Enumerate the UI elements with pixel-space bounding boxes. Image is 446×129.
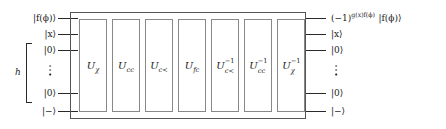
gate-u-c-lt-inverse-label: U−1c< — [216, 61, 233, 71]
output-label-zero-bottom: |0⟩ — [331, 89, 343, 98]
output-label-zero-top: |0⟩ — [331, 46, 343, 55]
gate-u-cc-inverse[interactable]: U−1cc — [244, 19, 272, 112]
gate-u-cc-inverse-label: U−1cc — [249, 61, 266, 71]
register-label-h: h — [15, 67, 21, 77]
input-vertical-ellipsis — [49, 62, 51, 77]
output-wire-3 — [306, 93, 326, 94]
output-label-x: |x⟩ — [331, 30, 343, 39]
gate-u-cc-label: Ucc — [118, 61, 134, 71]
gate-u-c-lt[interactable]: Uc< — [145, 19, 173, 112]
gate-u-fc[interactable]: Ufc — [178, 19, 206, 112]
gate-u-chi-inverse[interactable]: U−1χ — [277, 19, 305, 112]
gate-u-chi[interactable]: Uχ — [79, 19, 107, 112]
input-label-minus: |−⟩ — [42, 107, 56, 116]
quantum-circuit-figure: |f(ϕ)⟩ |x⟩ |0⟩ |0⟩ |−⟩ h Uχ Ucc Uc< Ufc … — [0, 0, 446, 129]
gate-u-c-lt-label: Uc< — [150, 61, 168, 71]
gate-u-cc[interactable]: Ucc — [112, 19, 140, 112]
gate-u-c-lt-inverse[interactable]: U−1c< — [211, 19, 239, 112]
gate-u-chi-label: Uχ — [87, 61, 99, 71]
output-wire-2 — [306, 50, 326, 51]
output-wire-1 — [306, 34, 326, 35]
gate-u-fc-label: Ufc — [185, 61, 200, 71]
output-wire-0 — [306, 18, 326, 19]
register-bracket — [26, 43, 32, 103]
output-vertical-ellipsis — [335, 62, 337, 77]
gate-u-chi-inverse-label: U−1χ — [282, 61, 299, 71]
input-label-f-phi: |f(ϕ)⟩ — [33, 14, 56, 23]
input-label-zero-bottom: |0⟩ — [44, 89, 56, 98]
output-label-minus: |−⟩ — [331, 107, 345, 116]
output-wire-4 — [306, 111, 326, 112]
input-label-zero-top: |0⟩ — [44, 46, 56, 55]
input-label-x: |x⟩ — [44, 30, 56, 39]
output-label-phase-f-phi: (−1)g(x)f(ϕ) |f(ϕ)⟩ — [331, 14, 401, 23]
